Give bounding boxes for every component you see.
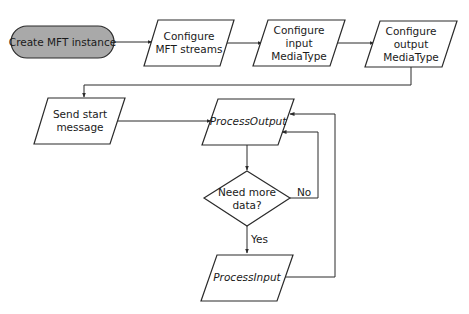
edge-label-no: No: [297, 186, 311, 198]
node-label: Need more: [218, 186, 276, 198]
node-label: message: [56, 121, 103, 133]
mft-flowchart: Create MFT instance Configure MFT stream…: [0, 0, 469, 314]
node-label: ProcessInput: [213, 271, 281, 283]
node-label: Configure: [386, 25, 437, 37]
node-label: ProcessOutput: [210, 115, 288, 127]
node-label: MediaType: [271, 50, 327, 62]
node-label: Create MFT instance: [9, 36, 116, 48]
node-send-start-message: Send start message: [34, 98, 125, 144]
node-configure-mft-streams: Configure MFT streams: [144, 20, 234, 66]
node-label: Configure: [274, 24, 325, 36]
node-label: Configure: [164, 30, 215, 42]
node-label: MFT streams: [156, 43, 223, 55]
edge-output-to-send-start: [84, 67, 411, 97]
node-label: input: [285, 37, 312, 49]
node-configure-output-mediatype: Configure output MediaType: [365, 21, 457, 67]
node-create-mft-instance: Create MFT instance: [9, 26, 116, 58]
node-need-more-data-decision: Need more data?: [204, 171, 290, 226]
edges: [84, 42, 411, 277]
node-process-input: ProcessInput: [201, 255, 293, 301]
edge-label-yes: Yes: [250, 233, 268, 245]
node-label: output: [394, 38, 429, 50]
node-process-output: ProcessOutput: [202, 99, 294, 145]
node-label: Send start: [53, 108, 107, 120]
node-label: data?: [232, 199, 261, 211]
node-label: MediaType: [383, 51, 439, 63]
node-configure-input-mediatype: Configure input MediaType: [253, 20, 345, 66]
